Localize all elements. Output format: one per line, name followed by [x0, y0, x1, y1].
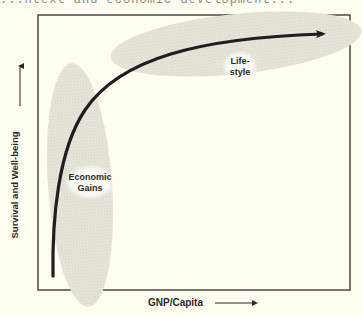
x-axis-arrowhead-icon — [252, 300, 258, 306]
economic-gains-label: Economic Gains — [64, 172, 116, 194]
x-axis-label: GNP/Capita — [148, 297, 203, 308]
lifestyle-label: Life- style — [222, 56, 258, 78]
diagram-canvas — [0, 0, 363, 317]
y-axis-label: Survival and Well-being — [9, 132, 20, 239]
economic-gains-label-line2: Gains — [64, 183, 116, 194]
lifestyle-label-line1: Life- — [222, 56, 258, 67]
y-axis-label-container: Survival and Well-being — [4, 85, 24, 285]
economic-gains-label-line1: Economic — [64, 172, 116, 183]
lifestyle-label-line2: style — [222, 67, 258, 78]
